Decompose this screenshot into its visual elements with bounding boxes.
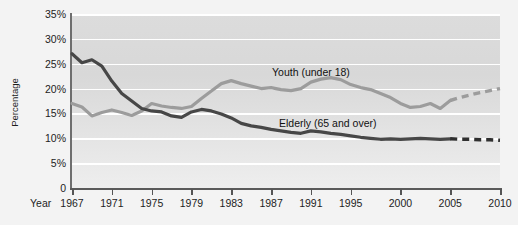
- series-label-elderly: Elderly (65 and over): [279, 117, 376, 129]
- series-label-youth: Youth (under 18): [272, 66, 350, 78]
- series-lines: [0, 0, 518, 225]
- series-projection-elderly: [450, 139, 500, 140]
- series-line-elderly: [72, 54, 450, 140]
- series-projection-youth: [450, 89, 500, 101]
- chart-figure: 35%30%25%20%15%10%5%0 Percentage 1967197…: [0, 0, 518, 225]
